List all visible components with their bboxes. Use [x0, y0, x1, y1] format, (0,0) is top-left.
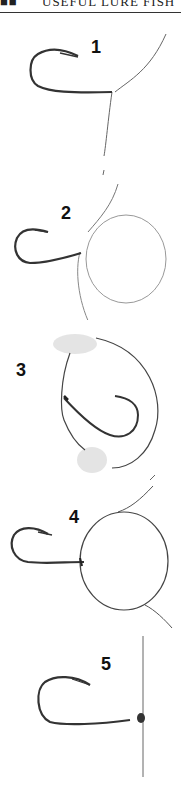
step-number: 3	[16, 360, 26, 381]
step-2-illustration: 2	[0, 170, 181, 320]
finished-knot-icon	[0, 630, 181, 797]
header-mark: ■■	[0, 0, 18, 8]
step-number: 4	[69, 507, 79, 528]
header-rule	[0, 12, 181, 13]
hook-wrap-icon	[0, 320, 181, 480]
step-4-illustration: 4	[0, 480, 181, 630]
hook-big-loop-icon	[0, 480, 181, 630]
step-5-illustration: 5	[0, 630, 181, 797]
step-1-illustration: 1	[0, 20, 181, 170]
step-number: 1	[91, 37, 101, 58]
hook-loop-icon	[0, 170, 181, 320]
running-header: ■■ USEFUL LURE FISH	[0, 0, 181, 8]
step-number: 2	[61, 203, 71, 224]
step-3-illustration: 3	[0, 320, 181, 480]
header-title: USEFUL LURE FISH	[42, 0, 175, 8]
step-number: 5	[101, 654, 111, 675]
